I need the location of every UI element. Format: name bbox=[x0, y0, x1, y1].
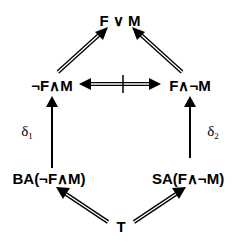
node-bottom-label: T bbox=[116, 218, 125, 235]
node-mid-right-label: F∧¬M bbox=[169, 77, 210, 94]
node-top: F ∨ M bbox=[100, 13, 141, 28]
edge-mid-left-to-mid-right-not-equivalent bbox=[79, 75, 161, 93]
delta-subscript: 1 bbox=[28, 131, 33, 141]
node-top-label: F ∨ M bbox=[100, 12, 141, 29]
edge-low-right-to-mid-right bbox=[184, 96, 196, 158]
edge-mid-left-to-top bbox=[58, 27, 108, 72]
node-mid-left: ¬F∧M bbox=[31, 78, 72, 93]
arrowhead-icon bbox=[149, 78, 161, 90]
node-low-left-label: BA(¬F∧M) bbox=[12, 170, 85, 187]
node-bottom: T bbox=[116, 219, 125, 234]
node-mid-right: F∧¬M bbox=[169, 78, 210, 93]
edge-mid-right-to-top bbox=[132, 27, 182, 72]
node-low-left: BA(¬F∧M) bbox=[12, 171, 85, 186]
node-low-right: SA(F∧¬M) bbox=[152, 171, 224, 186]
arrowhead-icon bbox=[46, 96, 58, 107]
edge-label-delta-2: δ2 bbox=[207, 124, 219, 141]
arrowhead-icon bbox=[79, 78, 91, 90]
arrowhead-icon bbox=[184, 96, 196, 107]
edge-low-left-to-mid-left bbox=[46, 96, 58, 168]
node-mid-left-label: ¬F∧M bbox=[31, 77, 72, 94]
delta-subscript: 2 bbox=[214, 131, 219, 141]
diagram-edges bbox=[0, 0, 240, 243]
node-low-right-label: SA(F∧¬M) bbox=[152, 170, 224, 187]
edge-bottom-to-low-left bbox=[56, 187, 108, 222]
implication-diagram: F ∨ M ¬F∧M F∧¬M δ1 δ2 BA(¬F∧M) SA(F∧¬M) … bbox=[0, 0, 240, 243]
edge-label-delta-1: δ1 bbox=[21, 124, 33, 141]
edge-bottom-to-low-right bbox=[134, 187, 186, 222]
